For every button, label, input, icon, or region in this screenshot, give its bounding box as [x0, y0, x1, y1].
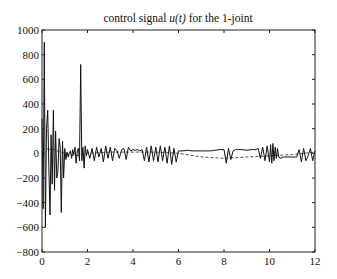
y-axis-ticks: 10008006004002000−200−400−600−800	[16, 24, 315, 258]
plot-area	[42, 42, 315, 227]
y-tick-label: 1000	[17, 24, 40, 36]
y-tick-label: −800	[16, 246, 39, 258]
x-tick-label: 0	[39, 255, 45, 267]
x-tick-label: 8	[221, 255, 227, 267]
y-tick-label: 600	[23, 73, 40, 85]
x-tick-label: 10	[264, 255, 276, 267]
control-signal-line	[42, 42, 315, 227]
y-tick-label: −200	[16, 172, 39, 184]
chart-title: control signal u(t) for the 1-joint	[103, 12, 253, 25]
y-tick-label: 200	[23, 123, 40, 135]
axes-frame	[42, 30, 315, 252]
y-tick-label: 400	[23, 98, 40, 110]
y-tick-label: −400	[16, 197, 39, 209]
y-tick-label: 0	[34, 147, 40, 159]
x-tick-label: 6	[176, 255, 182, 267]
chart: control signal u(t) for the 1-joint 0246…	[0, 0, 337, 279]
x-tick-label: 12	[310, 255, 321, 267]
x-tick-label: 2	[85, 255, 91, 267]
x-tick-label: 4	[130, 255, 136, 267]
y-tick-label: −600	[16, 221, 39, 233]
y-tick-label: 800	[23, 49, 40, 61]
